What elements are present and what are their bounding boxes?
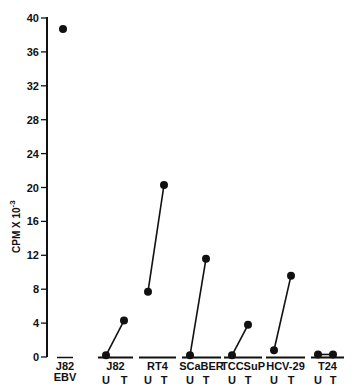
data-point-u xyxy=(102,351,110,359)
data-groups: J82EBVJ82UTRT4UTSCaBERUTTCCSuPUTHCV-29UT… xyxy=(54,25,344,386)
y-tick-label: 16 xyxy=(27,215,39,227)
condition-label-t: T xyxy=(330,374,337,386)
data-point-t xyxy=(202,255,210,263)
data-point-t xyxy=(244,321,252,329)
group-label: RT4 xyxy=(147,360,169,372)
condition-label-u: U xyxy=(144,374,152,386)
data-point-u xyxy=(314,350,322,358)
scatter-chart: 0481216202428323640 CPM X 10-3 J82EBVJ82… xyxy=(0,0,356,390)
group-label: J82 xyxy=(106,360,124,372)
y-tick-label: 24 xyxy=(27,148,40,160)
group-sublabel: EBV xyxy=(54,371,77,383)
condition-label-u: U xyxy=(228,374,236,386)
group-hcv-29: HCV-29UT xyxy=(266,272,305,386)
data-point-t xyxy=(329,350,337,358)
y-tick-label: 8 xyxy=(33,283,39,295)
y-axis-title: CPM X 10-3 xyxy=(8,200,22,253)
y-tick-label: 36 xyxy=(27,46,39,58)
data-point-t xyxy=(120,317,128,325)
group-rt4: RT4UT xyxy=(139,181,176,386)
connector-line xyxy=(148,185,164,292)
data-point-u xyxy=(270,346,278,354)
condition-label-t: T xyxy=(121,374,128,386)
connector-line xyxy=(190,259,206,356)
connector-line xyxy=(232,325,248,356)
y-axis: 0481216202428323640 xyxy=(27,12,47,363)
condition-label-t: T xyxy=(161,374,168,386)
condition-label-u: U xyxy=(186,374,194,386)
y-tick-label: 4 xyxy=(33,317,40,329)
y-tick-label: 20 xyxy=(27,182,39,194)
group-t24: T24UT xyxy=(311,350,344,386)
group-label: TCCSuP xyxy=(221,360,265,372)
y-tick-label: 28 xyxy=(27,114,39,126)
group-label: SCaBER xyxy=(179,360,224,372)
data-point-t xyxy=(287,272,295,280)
condition-label-u: U xyxy=(314,374,322,386)
y-tick-label: 12 xyxy=(27,249,39,261)
data-point-u xyxy=(186,351,194,359)
y-tick-label: 32 xyxy=(27,80,39,92)
group-scaber: SCaBERUT xyxy=(179,255,224,386)
data-point-single xyxy=(59,25,67,33)
condition-label-u: U xyxy=(102,374,110,386)
y-axis-label: CPM X 10-3 xyxy=(8,200,22,253)
group-label: HCV-29 xyxy=(266,360,305,372)
y-tick-label: 0 xyxy=(33,351,39,363)
group-j82-ebv: J82EBV xyxy=(54,25,77,383)
condition-label-u: U xyxy=(270,374,278,386)
chart-container: 0481216202428323640 CPM X 10-3 J82EBVJ82… xyxy=(0,0,356,390)
y-tick-label: 40 xyxy=(27,12,39,24)
data-point-u xyxy=(228,351,236,359)
condition-label-t: T xyxy=(288,374,295,386)
connector-line xyxy=(106,321,124,356)
condition-label-t: T xyxy=(245,374,252,386)
group-tccsup: TCCSuPUT xyxy=(221,321,265,386)
data-point-u xyxy=(144,288,152,296)
group-label: T24 xyxy=(318,360,338,372)
group-j82: J82UT xyxy=(98,317,133,386)
condition-label-t: T xyxy=(203,374,210,386)
connector-line xyxy=(274,276,291,351)
data-point-t xyxy=(160,181,168,189)
